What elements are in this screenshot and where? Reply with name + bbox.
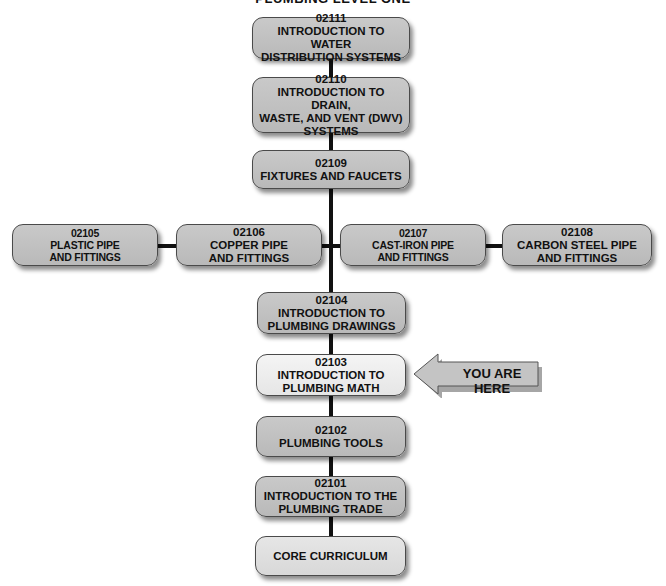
connector-02106-trunk [322,244,340,248]
connector-02105-02106 [158,244,176,248]
module-title-line: DISTRIBUTION SYSTEMS [261,51,401,64]
module-title-line: INTRODUCTION TO DRAIN, [257,86,405,112]
module-code: 02110 [315,73,346,86]
module-code: 02101 [315,477,347,490]
module-title-line: INTRODUCTION TO [278,307,385,320]
module-title-line: PLUMBING MATH [283,382,380,395]
diagram-title: PLUMBING LEVEL ONE [0,0,666,6]
module-code: 02109 [315,157,347,170]
module-title-line: CORE CURRICULUM [273,550,387,563]
module-title-line: INTRODUCTION TO THE [264,490,397,503]
module-title-line: FIXTURES AND FAUCETS [260,170,401,183]
module-title-line: PLUMBING TRADE [278,503,382,516]
module-code: 02106 [233,226,265,239]
module-02102: 02102 PLUMBING TOOLS [256,416,406,457]
module-title-line: AND FITTINGS [537,252,618,265]
module-02103-current: 02103 INTRODUCTION TO PLUMBING MATH [256,354,406,396]
module-02104: 02104 INTRODUCTION TO PLUMBING DRAWINGS [257,292,406,334]
module-code: 02107 [399,227,427,239]
module-code: 02111 [316,12,347,25]
module-title-line: PLASTIC PIPE [50,239,119,251]
connector-02107-02108 [486,244,502,248]
module-02109: 02109 FIXTURES AND FAUCETS [252,150,410,189]
module-code: 02108 [561,226,593,239]
module-title-line: AND FITTINGS [209,252,290,265]
module-code: 02102 [315,424,347,437]
module-code: 02104 [316,294,348,307]
module-title-line: PLUMBING DRAWINGS [268,320,396,333]
module-02108: 02108 CARBON STEEL PIPE AND FITTINGS [502,224,652,266]
module-code: 02103 [315,356,347,369]
module-02111: 02111 INTRODUCTION TO WATER DISTRIBUTION… [252,17,410,59]
you-are-here-label: YOU ARE HERE [446,366,538,396]
module-title-line: AND FITTINGS [49,251,120,263]
module-title-line: AND FITTINGS [377,251,448,263]
module-title-line: SYSTEMS [304,125,359,138]
module-02110: 02110 INTRODUCTION TO DRAIN, WASTE, AND … [252,77,410,133]
module-code: 02105 [71,227,99,239]
module-core-curriculum: CORE CURRICULUM [255,536,406,576]
module-02107: 02107 CAST-IRON PIPE AND FITTINGS [340,224,486,266]
module-title-line: CARBON STEEL PIPE [517,239,637,252]
module-title-line: INTRODUCTION TO WATER [257,25,405,51]
module-title-line: INTRODUCTION TO [277,369,384,382]
module-title-line: CAST-IRON PIPE [372,239,454,251]
module-02101: 02101 INTRODUCTION TO THE PLUMBING TRADE [255,476,406,517]
module-02105: 02105 PLASTIC PIPE AND FITTINGS [12,224,158,266]
module-title-line: PLUMBING TOOLS [279,437,383,450]
module-02106: 02106 COPPER PIPE AND FITTINGS [176,224,322,266]
module-title-line: COPPER PIPE [210,239,288,252]
module-title-line: WASTE, AND VENT (DWV) [259,112,402,125]
